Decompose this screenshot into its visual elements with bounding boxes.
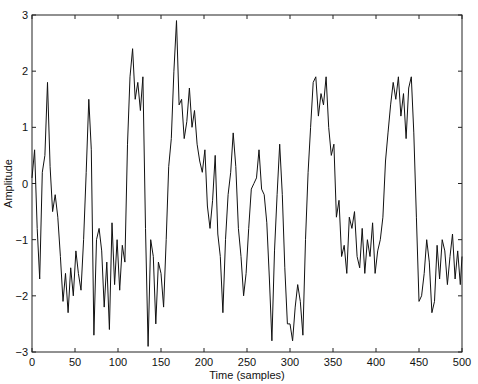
x-tick-label: 350	[324, 356, 342, 368]
y-tick-label: 0	[22, 178, 28, 190]
y-tick-label: −3	[15, 346, 28, 358]
x-tick-label: 50	[69, 356, 81, 368]
line-chart: 050100150200250300350400450500 −3−2−1012…	[0, 0, 478, 384]
y-tick-label: 1	[22, 121, 28, 133]
x-tick-label: 200	[195, 356, 213, 368]
x-tick-label: 100	[109, 356, 127, 368]
x-tick-label: 250	[238, 356, 256, 368]
x-tick-label: 150	[152, 356, 170, 368]
x-tick-label: 0	[29, 356, 35, 368]
x-tick-label: 500	[453, 356, 471, 368]
signal-line	[32, 21, 462, 347]
y-axis-label: Amplitude	[2, 159, 14, 208]
x-axis-label: Time (samples)	[209, 369, 284, 381]
plot-frame	[32, 15, 462, 352]
y-tick-label: −2	[15, 290, 28, 302]
x-tick-label: 300	[281, 356, 299, 368]
x-tick-label: 450	[410, 356, 428, 368]
y-tick-label: 3	[22, 9, 28, 21]
y-tick-label: −1	[15, 234, 28, 246]
y-tick-label: 2	[22, 65, 28, 77]
x-tick-label: 400	[367, 356, 385, 368]
y-axis: −3−2−10123	[15, 9, 462, 358]
x-axis: 050100150200250300350400450500	[29, 15, 471, 368]
